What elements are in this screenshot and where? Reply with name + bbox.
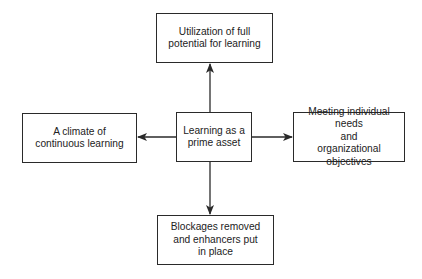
node-blockages-removed: Blockages removed and enhancers put in p… [157,215,274,265]
node-utilization-of-full-potential: Utilization of full potential for learni… [156,13,273,63]
node-learning-as-prime-asset: Learning as a prime asset [176,112,252,162]
node-meeting-needs-and-objectives: Meeting individual needs and organizatio… [293,112,405,162]
diagram-canvas: Utilization of full potential for learni… [0,0,422,279]
node-climate-of-continuous-learning: A climate of continuous learning [22,113,137,163]
